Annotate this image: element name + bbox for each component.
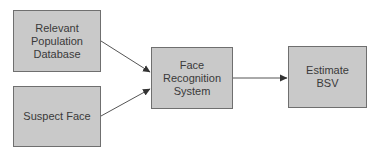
edge-database-to-face-recognition [101, 41, 150, 72]
node-relevant-population-database: Relevant Population Database [13, 10, 101, 72]
node-face-recognition-system: Face Recognition System [151, 47, 233, 109]
node-estimate-bsv: Estimate BSV [288, 46, 367, 108]
node-suspect-face: Suspect Face [13, 86, 101, 147]
flowchart-diagram: Relevant Population Database Suspect Fac… [0, 0, 379, 157]
edge-suspect-face-to-face-recognition [101, 89, 150, 116]
